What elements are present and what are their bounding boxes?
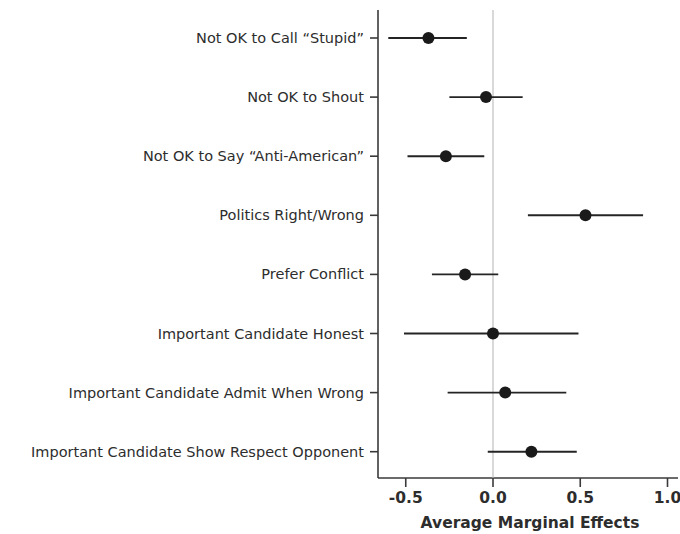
estimate-row [488,446,577,458]
category-label: Not OK to Call “Stupid” [196,30,364,46]
x-tick-label: 0.0 [479,489,507,507]
y-axis-ticks [370,38,378,452]
chart-canvas: Not OK to Call “Stupid”Not OK to ShoutNo… [0,0,680,534]
coefficient-plot: Not OK to Call “Stupid”Not OK to ShoutNo… [0,0,680,534]
category-label: Prefer Conflict [261,266,364,282]
estimate-point-marker [499,387,511,399]
x-tick-label: -0.5 [389,489,423,507]
estimate-point-marker [525,446,537,458]
category-label: Important Candidate Honest [158,326,365,342]
category-label: Not OK to Shout [247,89,364,105]
x-tick-label: 0.5 [567,489,594,507]
category-labels: Not OK to Call “Stupid”Not OK to ShoutNo… [31,30,364,460]
estimate-row [388,32,467,44]
estimate-point-marker [579,209,591,221]
estimate-row [528,209,643,221]
category-label: Politics Right/Wrong [219,207,364,223]
category-label: Not OK to Say “Anti-American” [143,148,364,164]
estimate-row [448,387,567,399]
estimate-point-marker [459,268,471,280]
x-axis-ticks [406,478,668,487]
x-axis-tick-labels: -0.50.00.51.0 [389,489,680,507]
estimate-row [432,268,498,280]
category-label: Important Candidate Admit When Wrong [69,385,364,401]
estimate-row [449,91,522,103]
estimate-point-marker [487,328,499,340]
estimate-point-marker [440,150,452,162]
estimate-row [404,328,579,340]
x-tick-label: 1.0 [654,489,680,507]
estimate-point-marker [480,91,492,103]
x-axis-title: Average Marginal Effects [421,514,640,532]
estimate-row [407,150,484,162]
category-label: Important Candidate Show Respect Opponen… [31,444,364,460]
estimate-point-marker [422,32,434,44]
estimate-series [388,32,643,458]
